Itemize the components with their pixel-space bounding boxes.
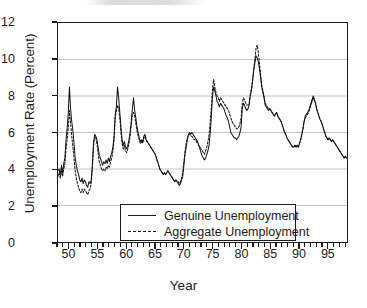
y-tick-label: 8: [0, 89, 15, 103]
scan-artifact: [86, 0, 206, 5]
chart-figure: Unemployment Rate (Percent) Year 0246810…: [0, 0, 367, 308]
y-tick-label: 12: [0, 15, 15, 29]
x-tick-label: 95: [308, 247, 348, 261]
y-tick-label: 2: [0, 199, 15, 213]
y-axis-label: Unemployment Rate (Percent): [22, 9, 37, 239]
legend-label-aggregate: Aggregate Unemployment: [164, 225, 309, 239]
x-axis-label: Year: [0, 278, 367, 293]
y-tick-label: 0: [0, 236, 15, 250]
legend-item-genuine: Genuine Unemployment: [127, 208, 289, 224]
legend-label-genuine: Genuine Unemployment: [164, 209, 299, 223]
y-tick-label: 6: [0, 126, 15, 140]
dashed-line-swatch-icon: [127, 227, 157, 237]
legend: Genuine Unemployment Aggregate Unemploym…: [120, 204, 296, 241]
legend-item-aggregate: Aggregate Unemployment: [127, 224, 289, 240]
solid-line-swatch-icon: [127, 211, 157, 221]
y-tick-label: 10: [0, 52, 15, 66]
y-tick-label: 4: [0, 162, 15, 176]
